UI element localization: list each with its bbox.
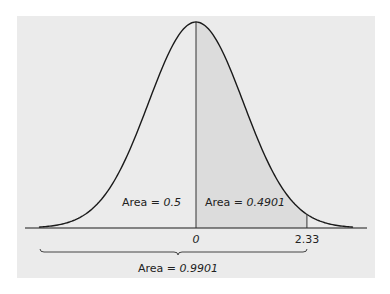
right-area-label: Area = 0.4901: [205, 196, 285, 209]
left-area-label: Area = 0.5: [122, 196, 181, 209]
total-area-label: Area = 0.9901: [138, 262, 218, 275]
tick-label-z: 2.33: [295, 233, 320, 246]
tick-label-zero: 0: [193, 233, 200, 246]
normal-distribution-chart: Area = 0.5 Area = 0.4901 0 2.33 Area = 0…: [0, 0, 390, 294]
